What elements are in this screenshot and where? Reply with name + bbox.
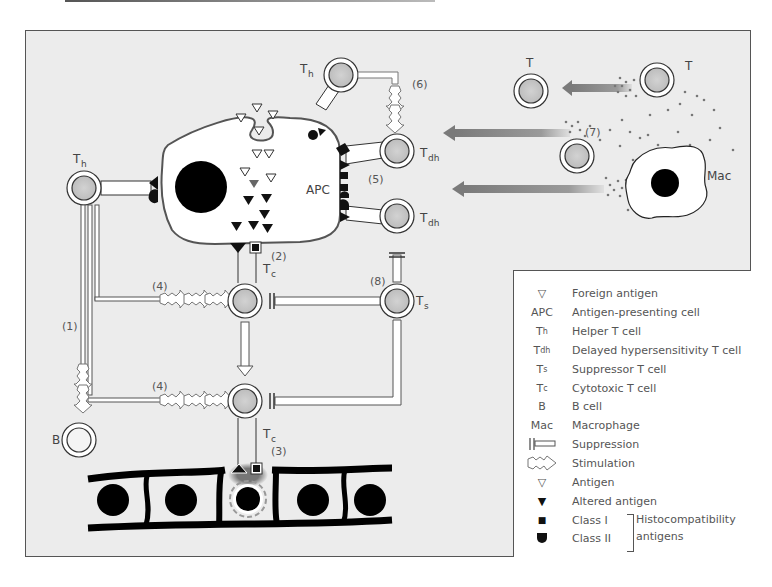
legend-row-altered-antigen: ▼ Altered antigen	[514, 492, 657, 510]
histocompatibility-label: Histocompatibility antigens	[636, 511, 746, 545]
apc-abbrev: APC	[514, 306, 570, 319]
step-6-label: (6)	[412, 78, 428, 91]
legend-row-stimulation: Stimulation	[514, 454, 635, 472]
legend-row-suppression: Suppression	[514, 435, 639, 453]
tc-lower-cell: T c (3)	[228, 384, 287, 466]
svg-text:T: T	[419, 146, 428, 160]
legend-row-tdh: Tdh Delayed hypersensitivity T cell	[514, 341, 741, 359]
apc-surface-markers	[340, 172, 349, 198]
svg-text:h: h	[308, 69, 314, 79]
stimulation-arrow-tc-lower	[160, 391, 233, 409]
ts-cell: T s (8)	[370, 253, 429, 318]
step-2-label: (2)	[271, 250, 287, 263]
tc-abbrev: Tc	[514, 382, 570, 395]
svg-text:T: T	[72, 152, 81, 166]
legend: ▽ Foreign antigen APC Antigen-presenting…	[513, 270, 751, 557]
foreign-antigen-icon: ▽	[514, 287, 570, 300]
legend-row-apc: APC Antigen-presenting cell	[514, 303, 700, 321]
svg-text:T: T	[415, 294, 424, 308]
legend-row-ts: Ts Suppressor T cell	[514, 360, 666, 378]
b-abbrev: B	[514, 400, 570, 413]
svg-text:T: T	[525, 56, 534, 70]
svg-text:h: h	[81, 159, 87, 169]
legend-row-b: B B cell	[514, 397, 602, 415]
step-1-label: (1)	[62, 320, 78, 333]
step-8-label: (8)	[370, 275, 386, 288]
th-left-cell: T h	[67, 152, 158, 205]
class-ii-icon	[514, 533, 570, 543]
svg-text:dh: dh	[428, 153, 439, 163]
svg-text:T: T	[419, 211, 428, 225]
svg-text:Mac: Mac	[707, 169, 731, 183]
legend-row-class-ii: Class II	[514, 529, 611, 547]
svg-text:c: c	[271, 434, 276, 444]
legend-row-th: Th Helper T cell	[514, 322, 641, 340]
tc-to-tc-arrow	[237, 322, 253, 376]
legend-row-foreign-antigen: ▽ Foreign antigen	[514, 284, 658, 302]
suppression-lines	[270, 293, 401, 409]
apc-nucleus	[175, 161, 227, 213]
step-3-label: (3)	[271, 445, 287, 458]
tdh-abbrev: Tdh	[514, 344, 570, 357]
svg-text:c: c	[271, 269, 276, 279]
svg-text:T: T	[262, 427, 271, 441]
tdh-upper-cell: T dh	[336, 134, 439, 170]
legend-row-tc: Tc Cytotoxic T cell	[514, 379, 656, 397]
ts-abbrev: Ts	[514, 363, 570, 376]
apc-label: APC	[306, 183, 330, 197]
step-4a-label: (4)	[152, 280, 168, 293]
histocompatibility-bracket	[627, 514, 634, 552]
svg-text:B: B	[52, 433, 60, 447]
tc-upper-cell: T c (2)	[228, 242, 287, 318]
svg-text:T: T	[299, 62, 308, 76]
legend-row-antigen: ▽ Antigen	[514, 473, 615, 491]
svg-text:dh: dh	[428, 218, 439, 228]
tdh-lower-cell: T dh	[340, 199, 439, 233]
b-cell: B	[52, 423, 96, 457]
altered-antigen-icon: ▼	[514, 495, 570, 508]
svg-text:T: T	[262, 262, 271, 276]
step-5-label: (5)	[368, 173, 384, 186]
stimulation-icon	[514, 455, 570, 471]
step-4b-label: (4)	[152, 380, 168, 393]
svg-text:T: T	[684, 59, 693, 73]
th-abbrev: Th	[514, 325, 570, 338]
legend-row-mac: Mac Macrophage	[514, 416, 640, 434]
antigen-icon: ▽	[514, 476, 570, 489]
target-tissue	[88, 463, 392, 528]
svg-text:s: s	[424, 301, 429, 311]
stimulation-arrow-tc-upper	[160, 290, 233, 308]
legend-row-class-i: ■ Class I	[514, 511, 608, 529]
step-7-label: (7)	[585, 126, 601, 139]
mac-abbrev: Mac	[514, 419, 570, 432]
class-i-icon: ■	[514, 515, 570, 525]
suppression-icon	[514, 437, 570, 451]
macrophage: Mac	[626, 146, 732, 218]
